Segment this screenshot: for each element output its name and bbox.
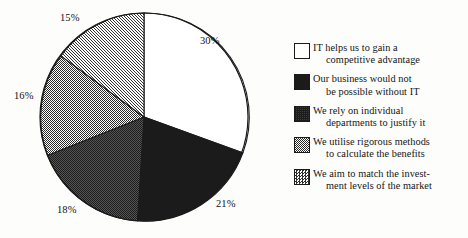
legend-label-3-line1: We rely on individual: [313, 105, 403, 116]
legend-label-5: We aim to match the invest- ment levels …: [313, 168, 432, 192]
legend-label-1-line1: IT helps us to gain a: [313, 42, 398, 53]
legend-label-3: We rely on individual departments to jus…: [313, 105, 425, 129]
legend-swatch-dense-dither-icon: [294, 106, 310, 122]
pie-chart: 30% 21% 18% 16% 15%: [0, 0, 286, 238]
legend-item-4: We utilise rigorous methods to calculate…: [294, 136, 468, 160]
legend-label-2: Our business would not be possible witho…: [313, 73, 419, 97]
legend-item-1: IT helps us to gain a competitive advant…: [294, 42, 468, 66]
legend-item-5: We aim to match the invest- ment levels …: [294, 168, 468, 192]
legend-item-3: We rely on individual departments to jus…: [294, 105, 468, 129]
pie-label-slice-1: 30%: [200, 35, 220, 46]
legend-label-4-line1: We utilise rigorous methods: [313, 136, 430, 147]
legend-label-4: We utilise rigorous methods to calculate…: [313, 136, 430, 160]
legend-swatch-white-icon: [294, 43, 310, 59]
legend-label-4-line2: to calculate the benefits: [313, 148, 430, 160]
figure-page: 30% 21% 18% 16% 15% IT helps us to gain …: [0, 0, 468, 238]
pie-label-slice-2: 21%: [216, 198, 236, 209]
pie-label-slice-5: 15%: [60, 12, 80, 23]
legend-label-1-line2: competitive advantage: [313, 54, 420, 66]
legend-label-3-line2: departments to justify it: [313, 117, 425, 129]
legend-label-1: IT helps us to gain a competitive advant…: [313, 42, 420, 66]
legend-swatch-medium-checker-icon: [294, 137, 310, 153]
legend-label-2-line2: be possible without IT: [313, 86, 419, 98]
legend-swatch-light-dither-icon: [294, 169, 310, 185]
legend-swatch-black-icon: [294, 74, 310, 90]
legend-label-5-line2: ment levels of the market: [313, 180, 432, 192]
pie-label-slice-4: 16%: [14, 90, 34, 101]
legend-label-2-line1: Our business would not: [313, 73, 412, 84]
pie-chart-svg: [0, 0, 286, 238]
legend-label-5-line1: We aim to match the invest-: [313, 168, 430, 179]
legend-item-2: Our business would not be possible witho…: [294, 73, 468, 97]
chart-legend: IT helps us to gain a competitive advant…: [294, 42, 468, 199]
pie-label-slice-3: 18%: [57, 204, 77, 215]
